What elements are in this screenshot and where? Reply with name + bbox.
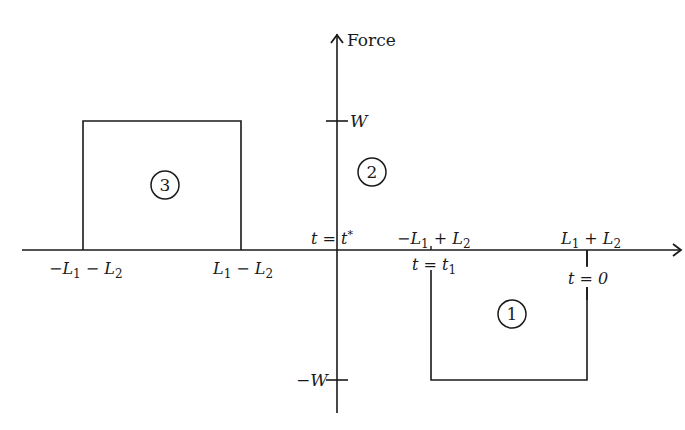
label-t-equals-t1: t = t1 <box>412 255 456 277</box>
svg-text:3: 3 <box>160 175 171 195</box>
label-neg-L1-plus-L2: −L1 + L2 <box>397 229 471 251</box>
svg-text:1: 1 <box>507 304 518 324</box>
svg-text:2: 2 <box>367 162 378 182</box>
label-neg-L1-minus-L2: −L1 − L2 <box>49 259 123 281</box>
y-axis <box>326 34 431 413</box>
y-axis-label: Force <box>347 30 396 50</box>
region-2-marker: 2 <box>358 158 386 186</box>
region-3-marker: 3 <box>151 171 179 199</box>
label-L1-minus-L2: L1 − L2 <box>212 259 273 281</box>
force-diagram: Force W −W t = t* −L1 + L2 L1 + L2 −L1 −… <box>0 0 685 430</box>
tick-label-minus-W: −W <box>296 370 329 390</box>
region-1-marker: 1 <box>498 300 526 328</box>
label-t-equals-0: t = 0 <box>568 269 608 288</box>
label-L1-plus-L2: L1 + L2 <box>560 229 621 251</box>
tick-label-W: W <box>350 111 369 131</box>
label-t-star: t = t* <box>311 228 353 248</box>
